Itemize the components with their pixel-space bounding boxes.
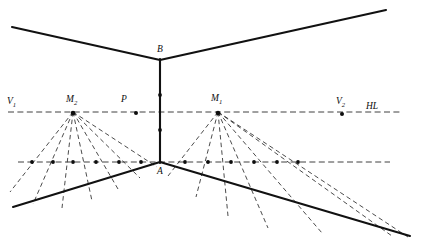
ceiling-edge-left <box>12 27 160 60</box>
dot-p <box>134 111 138 115</box>
ray-m1-6 <box>218 112 392 236</box>
label-m1: M1 <box>211 94 222 105</box>
ground-dot-l5 <box>117 160 121 164</box>
ground-dot-r5 <box>275 160 279 164</box>
label-m2: M2 <box>66 95 77 106</box>
ray-m1-7 <box>218 112 408 237</box>
ground-dot-r2 <box>206 160 210 164</box>
floor-edge-left <box>13 162 160 207</box>
ground-dot-l1 <box>30 160 34 164</box>
label-p: P <box>121 95 127 105</box>
label-a: A <box>157 167 163 177</box>
ground-dot-r1 <box>183 160 187 164</box>
diagram-canvas <box>0 0 423 248</box>
label-hl: HL <box>366 102 378 112</box>
ray-m1-5 <box>218 112 322 233</box>
ground-dot-l4 <box>94 160 98 164</box>
ray-m1-4 <box>218 112 268 228</box>
dot-v2 <box>340 112 344 116</box>
floor-edge-right <box>160 162 410 236</box>
corner-dot-lower <box>158 128 162 132</box>
dot-m2 <box>71 111 76 116</box>
ray-m2-1 <box>10 112 73 192</box>
label-v1: V1 <box>7 97 16 108</box>
measuring-fan-left <box>10 112 157 208</box>
ray-m2-3 <box>62 112 73 208</box>
ground-dot-l6 <box>139 160 143 164</box>
dot-m1 <box>216 111 221 116</box>
ray-m2-7 <box>73 112 157 167</box>
ray-m2-6 <box>73 112 140 178</box>
ray-m1-2 <box>196 112 218 197</box>
perspective-diagram: V1 M2 P M1 V2 HL B A <box>0 0 423 248</box>
ceiling-edges <box>12 10 386 60</box>
label-v2: V2 <box>336 97 345 108</box>
ceiling-edge-right <box>160 10 386 60</box>
corner-dot-upper <box>158 93 162 97</box>
ground-dot-l2 <box>51 160 55 164</box>
horizon-dots <box>71 111 344 116</box>
ground-dot-r3 <box>229 160 233 164</box>
ground-dot-r4 <box>252 160 256 164</box>
ground-dot-r6 <box>296 160 300 164</box>
ray-m1-3 <box>218 112 228 216</box>
ground-dot-l3 <box>71 160 75 164</box>
label-b: B <box>157 45 163 55</box>
